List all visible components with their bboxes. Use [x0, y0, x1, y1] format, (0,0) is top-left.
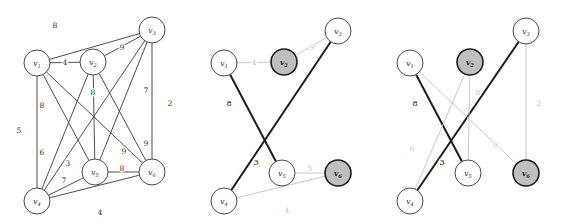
node-v3[interactable]: v3 [139, 17, 165, 43]
edge-v3-v5 [100, 42, 147, 160]
node-v1[interactable]: v1 [397, 50, 423, 76]
edge-weight-v5-v6: 5 [308, 164, 313, 173]
edge-weight-v4-v3: 3 [253, 158, 258, 167]
edge-weight-v3-v6: 2 [168, 99, 173, 108]
node-v1[interactable]: v1 [211, 50, 237, 76]
node-v3[interactable]: v3 [325, 18, 351, 44]
node-v5[interactable]: v5 [269, 160, 295, 186]
node-v4[interactable]: v4 [397, 188, 423, 214]
edge-weight-v4-v6: 4 [98, 208, 103, 217]
edge-weight-v4-v6: 4 [285, 206, 290, 215]
node-v4[interactable]: v4 [24, 188, 50, 214]
edge-weight-v1-v3: 8 [53, 21, 58, 30]
edge-weight-v2-v3: 9 [120, 43, 125, 52]
node-v2[interactable]: v2 [271, 49, 297, 75]
graph-panel-left: 884499558866883399772299774488v1v2v3v4v5… [0, 0, 190, 224]
edge-weight-v1-v6: 6 [40, 148, 45, 157]
edge-weight-v2-v4: 3 [66, 159, 71, 168]
matching-step-two-canvas: 883388996622v1v2v3v4v5v6 [372, 0, 562, 224]
graph-panel-middle: 449988335544v1v2v3v4v5v6 [186, 0, 374, 224]
edge-weight-v1-v2: 4 [252, 58, 257, 67]
node-v6[interactable]: v6 [325, 160, 351, 186]
edge-weight-v1-v5: 8 [40, 101, 45, 110]
edge-weight-v1-v5: 8 [412, 99, 417, 108]
node-v6[interactable]: v6 [139, 159, 165, 185]
weighted-graph-figure: 884499558866883399772299774488v1v2v3v4v5… [0, 0, 562, 224]
edge-v2-v5 [468, 75, 470, 160]
edge-weight-v3-v6: 2 [537, 99, 542, 108]
complete-weighted-graph-canvas: 884499558866883399772299774488v1v2v3v4v5… [0, 0, 190, 224]
edge-weight-v3-v4: 9 [144, 139, 149, 148]
edge-weight-v2-v3: 9 [310, 43, 315, 52]
edge-weight-v2-v4: 6 [410, 144, 415, 153]
graph-panel-right: 883388996622v1v2v3v4v5v6 [372, 0, 562, 224]
node-v1[interactable]: v1 [24, 50, 50, 76]
node-v3[interactable]: v3 [513, 18, 539, 44]
edge-weight-v1-v2: 4 [63, 58, 68, 67]
edge-weight-v1-v5: 8 [226, 99, 231, 108]
edge-weight-v4-v5: 7 [62, 176, 67, 185]
node-v2[interactable]: v2 [80, 49, 106, 75]
edge-v2-v4 [42, 74, 88, 189]
node-v5[interactable]: v5 [455, 160, 481, 186]
edge-weight-v3-v5: 7 [144, 86, 149, 95]
edge-weight-layer: 449988335544 [226, 43, 314, 215]
edge-weight-v2-v6: 9 [122, 147, 127, 156]
node-v6[interactable]: v6 [513, 160, 539, 186]
edge-v1-v5 [43, 74, 89, 160]
node-v5[interactable]: v5 [82, 159, 108, 185]
edge-weight-v2-v5: 8 [476, 88, 481, 97]
edge-v1-v5 [230, 74, 276, 161]
node-v2[interactable]: v2 [457, 49, 483, 75]
node-v4[interactable]: v4 [211, 188, 237, 214]
edge-weight-v1-v4: 5 [17, 126, 22, 135]
matching-step-one-canvas: 449988335544v1v2v3v4v5v6 [186, 0, 374, 224]
edge-weight-v2-v5: 8 [91, 88, 96, 97]
edge-weight-v1-v6: 9 [493, 141, 498, 150]
edge-weight-v4-v3: 3 [439, 158, 444, 167]
edge-weight-v5-v6: 8 [120, 164, 125, 173]
edge-v1-v5 [416, 74, 462, 161]
